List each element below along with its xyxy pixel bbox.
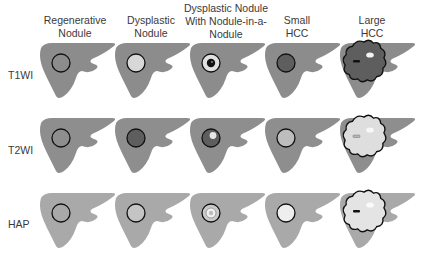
cell-t2wi-small-hcc <box>265 118 340 173</box>
cell-t1wi-regenerative <box>40 43 115 98</box>
cell-t1wi-dysplastic <box>115 43 190 98</box>
cell-hap-dysplastic <box>115 193 190 248</box>
cell-hap-small-hcc <box>265 193 340 248</box>
cell-t1wi-nodule-in-nodule <box>190 43 265 98</box>
cell-t2wi-large-hcc <box>340 115 415 173</box>
cell-t1wi-large-hcc <box>340 40 415 98</box>
liver-diagram-grid <box>0 0 421 261</box>
cell-t2wi-regenerative <box>40 118 115 173</box>
cell-hap-nodule-in-nodule <box>190 193 265 248</box>
cell-t2wi-nodule-in-nodule <box>190 118 265 173</box>
cell-t2wi-dysplastic <box>115 118 190 173</box>
cell-t1wi-small-hcc <box>265 43 340 98</box>
cell-hap-large-hcc <box>340 190 415 248</box>
cell-hap-regenerative <box>40 193 115 248</box>
